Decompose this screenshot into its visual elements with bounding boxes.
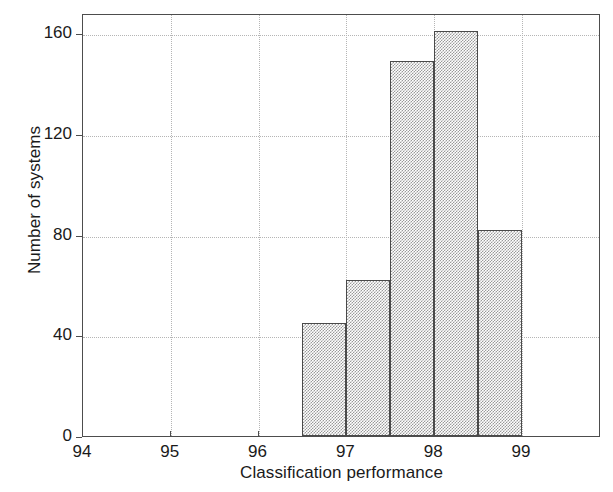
x-tick-label: 97 [315, 442, 375, 462]
x-tick-mark [433, 431, 434, 437]
x-tick-mark [170, 431, 171, 437]
y-tick-label: 160 [0, 23, 72, 43]
x-axis-title: Classification performance [82, 463, 601, 483]
histogram-bar [390, 61, 434, 436]
gridline-vertical [522, 15, 523, 436]
histogram-figure: Number of systems 04080120160 9495969798… [0, 0, 613, 492]
y-tick-mark [76, 336, 82, 337]
x-tick-label: 94 [52, 442, 112, 462]
histogram-bar [434, 31, 478, 436]
y-axis-title: Number of systems [25, 80, 45, 320]
x-tick-label: 99 [491, 442, 551, 462]
y-tick-mark [76, 437, 82, 438]
gridline-vertical [259, 15, 260, 436]
y-tick-mark [76, 236, 82, 237]
x-tick-mark [258, 431, 259, 437]
plot-area [82, 14, 600, 437]
histogram-bar [302, 323, 346, 436]
y-tick-label: 40 [0, 325, 72, 345]
plot-inner [83, 15, 599, 436]
y-tick-mark [76, 34, 82, 35]
y-tick-label: 80 [0, 225, 72, 245]
histogram-bar [346, 280, 390, 436]
x-tick-label: 98 [403, 442, 463, 462]
gridline-vertical [171, 15, 172, 436]
histogram-bar [478, 230, 522, 436]
x-tick-label: 95 [140, 442, 200, 462]
x-tick-mark [345, 431, 346, 437]
x-tick-mark [521, 431, 522, 437]
y-tick-mark [76, 135, 82, 136]
y-tick-label: 120 [0, 124, 72, 144]
x-tick-label: 96 [228, 442, 288, 462]
